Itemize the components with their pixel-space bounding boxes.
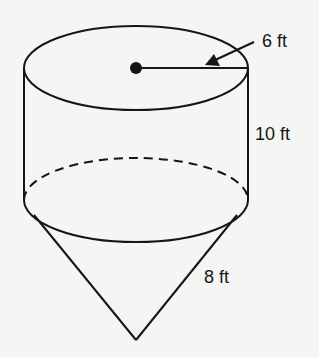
radius-label-arrow bbox=[213, 42, 254, 61]
diagram-figure bbox=[0, 0, 319, 357]
cone-left-slant bbox=[34, 215, 136, 340]
composite-solid-diagram: 6 ft 10 ft 8 ft bbox=[0, 0, 319, 357]
radius-label: 6 ft bbox=[262, 31, 287, 52]
cylinder-bottom-back-arc-dashed bbox=[24, 158, 248, 200]
cylinder-bottom-front-arc bbox=[24, 200, 248, 242]
slant-height-label: 8 ft bbox=[204, 267, 229, 288]
center-point bbox=[130, 62, 142, 74]
height-label: 10 ft bbox=[255, 124, 290, 145]
arrowhead-icon bbox=[205, 54, 220, 66]
